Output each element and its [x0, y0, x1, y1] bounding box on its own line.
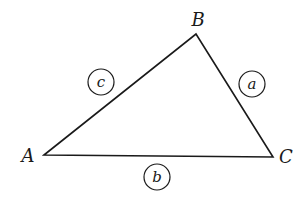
side-b-text: b: [152, 168, 162, 186]
vertex-b-text: B: [190, 9, 204, 30]
vertex-label-a: A: [20, 145, 35, 166]
vertex-a-text: A: [20, 145, 35, 166]
side-label-a: a: [239, 71, 265, 97]
side-label-c: c: [88, 69, 114, 95]
side-label-b: b: [144, 164, 170, 190]
vertex-c-text: C: [279, 146, 293, 167]
triangle-abc: [44, 34, 273, 157]
vertex-label-b: B: [190, 9, 204, 30]
triangle-diagram: A B C a b c: [0, 0, 305, 205]
side-c-text: c: [97, 73, 106, 91]
side-a-text: a: [248, 75, 257, 93]
vertex-label-c: C: [279, 146, 293, 167]
